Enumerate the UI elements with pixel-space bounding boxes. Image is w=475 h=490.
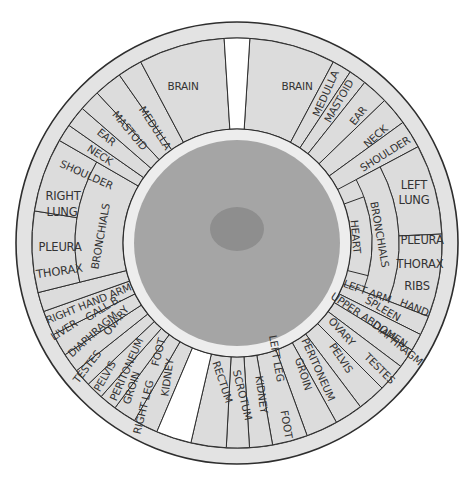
label-right-lung-1: RIGHT <box>46 189 82 203</box>
pupil <box>210 207 264 251</box>
label-pleura-right: PLEURA <box>400 233 444 247</box>
iris-zone-chart: BRAIN BRAIN MEDULLA MASTOID EAR NECK SHO… <box>0 0 475 490</box>
label-left-lung-1: LEFT <box>401 178 428 192</box>
label-thorax-right: THORAX <box>396 257 444 271</box>
label-ribs: RIBS <box>404 279 430 293</box>
label-brain-right: BRAIN <box>281 80 312 92</box>
label-left-lung-2: LUNG <box>399 193 430 207</box>
label-right-lung-2: LUNG <box>47 205 78 219</box>
label-brain-left: BRAIN <box>167 80 198 92</box>
label-pleura-left: PLEURA <box>38 240 82 254</box>
